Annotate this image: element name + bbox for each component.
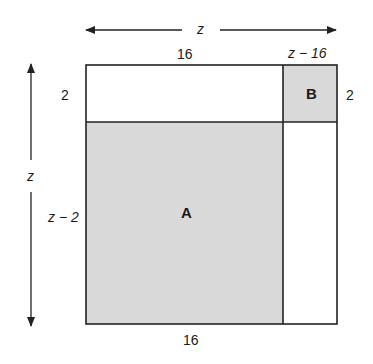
top-z-label: z bbox=[197, 21, 204, 37]
region-a bbox=[86, 122, 283, 324]
right-top-height-label: 2 bbox=[346, 87, 354, 103]
region-a-label: A bbox=[181, 205, 192, 221]
bottom-width-label: 16 bbox=[183, 332, 199, 348]
top-left-width-label: 16 bbox=[177, 46, 193, 62]
region-b-label: B bbox=[306, 86, 317, 102]
top-right-width-label: z − 16 bbox=[288, 45, 327, 61]
left-top-height-label: 2 bbox=[61, 87, 69, 103]
left-z-label: z bbox=[27, 168, 34, 184]
left-bottom-height-label: z − 2 bbox=[48, 209, 79, 225]
